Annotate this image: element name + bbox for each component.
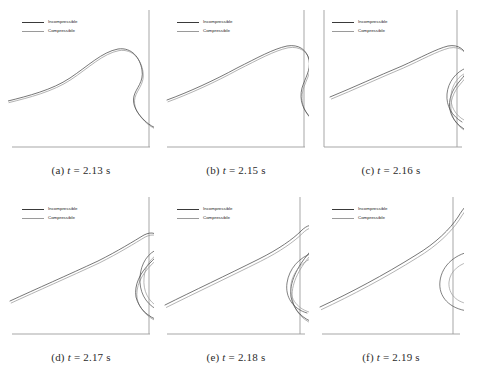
- legend-label-incompressible: Incompressible: [358, 206, 388, 212]
- panel-b-legend: Incompressible Compressible: [177, 18, 261, 36]
- panel-c-caption-var: t: [377, 164, 380, 176]
- panel-b-caption-eq: =: [229, 164, 235, 176]
- legend-label-incompressible: Incompressible: [358, 19, 388, 25]
- panel-b-caption-prefix: (b): [206, 164, 219, 176]
- panel-d-curves: [10, 233, 154, 323]
- panel-c-curves: [330, 46, 464, 134]
- figure-container: Incompressible Compressible (a) t = 2.13…: [0, 0, 482, 383]
- panel-b: Incompressible Compressible (b) t = 2.15…: [163, 4, 309, 192]
- legend-line-compressible-icon: [332, 218, 354, 219]
- legend-line-compressible-icon: [332, 31, 354, 32]
- panel-d: Incompressible Compressible (d) t = 2.17…: [8, 191, 154, 379]
- panel-e-caption-eq: =: [229, 351, 235, 363]
- panel-b-caption-unit: s: [261, 164, 265, 176]
- panel-c-caption-prefix: (c): [362, 164, 375, 176]
- legend-line-compressible-icon: [177, 31, 199, 32]
- panel-f-caption: (f) t = 2.19 s: [318, 351, 464, 363]
- panel-c-caption: (c) t = 2.16 s: [318, 164, 464, 176]
- panel-d-legend: Incompressible Compressible: [22, 205, 106, 223]
- legend-line-compressible-icon: [22, 31, 44, 32]
- panel-e-legend: Incompressible Compressible: [177, 205, 261, 223]
- legend-label-incompressible: Incompressible: [203, 206, 233, 212]
- legend-row-compressible: Compressible: [22, 214, 106, 222]
- legend-row-incompressible: Incompressible: [22, 205, 106, 213]
- legend-row-incompressible: Incompressible: [332, 18, 416, 26]
- panel-a-caption: (a) t = 2.13 s: [8, 164, 154, 176]
- legend-row-compressible: Compressible: [332, 27, 416, 35]
- panel-f: Incompressible Compressible (f) t = 2.19…: [318, 191, 464, 379]
- panel-c-caption-unit: s: [416, 164, 420, 176]
- panel-e-caption-prefix: (e): [207, 351, 220, 363]
- panel-d-caption-eq: =: [74, 351, 80, 363]
- legend-label-incompressible: Incompressible: [48, 206, 78, 212]
- panel-a-caption-unit: s: [106, 164, 110, 176]
- panel-d-caption-unit: s: [106, 351, 110, 363]
- legend-row-incompressible: Incompressible: [177, 205, 261, 213]
- legend-line-incompressible-icon: [177, 22, 199, 23]
- legend-label-incompressible: Incompressible: [48, 19, 78, 25]
- panel-a-caption-var: t: [67, 164, 70, 176]
- panel-e: Incompressible Compressible (e) t = 2.18…: [163, 191, 309, 379]
- legend-row-incompressible: Incompressible: [332, 205, 416, 213]
- panel-f-caption-prefix: (f): [362, 351, 374, 363]
- panel-a-caption-eq: =: [74, 164, 80, 176]
- legend-row-compressible: Compressible: [177, 27, 261, 35]
- panel-b-caption: (b) t = 2.15 s: [163, 164, 309, 176]
- panel-e-caption-var: t: [222, 351, 225, 363]
- panel-b-curves: [167, 46, 309, 132]
- legend-row-incompressible: Incompressible: [177, 18, 261, 26]
- panel-grid: Incompressible Compressible (a) t = 2.13…: [0, 0, 482, 383]
- legend-line-compressible-icon: [177, 218, 199, 219]
- panel-a-legend: Incompressible Compressible: [22, 18, 106, 36]
- legend-line-incompressible-icon: [332, 209, 354, 210]
- legend-line-incompressible-icon: [22, 22, 44, 23]
- legend-line-incompressible-icon: [332, 22, 354, 23]
- panel-f-caption-unit: s: [415, 351, 419, 363]
- panel-f-caption-eq: =: [383, 351, 389, 363]
- panel-c-caption-value: 2.16: [393, 164, 413, 176]
- panel-b-caption-value: 2.15: [238, 164, 258, 176]
- legend-row-compressible: Compressible: [177, 214, 261, 222]
- legend-label-incompressible: Incompressible: [203, 19, 233, 25]
- panel-d-caption: (d) t = 2.17 s: [8, 351, 154, 363]
- panel-a: Incompressible Compressible (a) t = 2.13…: [8, 4, 154, 192]
- legend-row-compressible: Compressible: [332, 214, 416, 222]
- panel-f-legend: Incompressible Compressible: [332, 205, 416, 223]
- panel-c-caption-eq: =: [384, 164, 390, 176]
- panel-d-caption-value: 2.17: [83, 351, 103, 363]
- panel-d-caption-var: t: [68, 351, 71, 363]
- panel-b-caption-var: t: [223, 164, 226, 176]
- legend-row-compressible: Compressible: [22, 27, 106, 35]
- legend-line-incompressible-icon: [22, 209, 44, 210]
- legend-label-compressible: Compressible: [358, 28, 385, 34]
- legend-label-compressible: Compressible: [203, 215, 230, 221]
- panel-c-legend: Incompressible Compressible: [332, 18, 416, 36]
- panel-e-curves: [165, 225, 309, 325]
- panel-e-caption-value: 2.18: [238, 351, 258, 363]
- panel-a-caption-prefix: (a): [52, 164, 65, 176]
- legend-label-compressible: Compressible: [48, 28, 75, 34]
- panel-d-caption-prefix: (d): [51, 351, 64, 363]
- panel-f-caption-var: t: [377, 351, 380, 363]
- legend-label-compressible: Compressible: [203, 28, 230, 34]
- legend-line-compressible-icon: [22, 218, 44, 219]
- panel-f-caption-value: 2.19: [392, 351, 412, 363]
- panel-a-caption-value: 2.13: [83, 164, 103, 176]
- legend-row-incompressible: Incompressible: [22, 18, 106, 26]
- panel-e-caption-unit: s: [261, 351, 265, 363]
- panel-e-caption: (e) t = 2.18 s: [163, 351, 309, 363]
- legend-label-compressible: Compressible: [358, 215, 385, 221]
- legend-line-incompressible-icon: [177, 209, 199, 210]
- legend-label-compressible: Compressible: [48, 215, 75, 221]
- panel-c: Incompressible Compressible (c) t = 2.16…: [318, 4, 464, 192]
- panel-a-curves: [8, 49, 154, 134]
